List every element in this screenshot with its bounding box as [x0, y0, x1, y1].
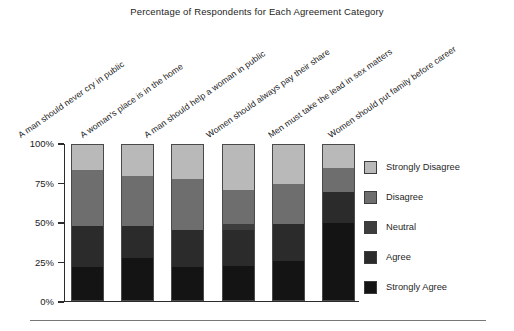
y-axis-tick-label: 100%	[30, 139, 58, 149]
bar-segment	[72, 226, 103, 268]
bar-group	[65, 144, 359, 301]
bar-segment	[323, 223, 354, 301]
bar-segment	[223, 145, 254, 190]
legend-color-swatch	[364, 191, 377, 204]
bar-segment	[172, 267, 203, 300]
bar-segment	[172, 179, 203, 230]
bar-segment	[72, 145, 103, 170]
stacked-bar	[272, 144, 305, 301]
bar-segment	[273, 145, 304, 184]
chart-figure: Percentage of Respondents for Each Agree…	[0, 0, 514, 331]
legend-label: Neutral	[386, 222, 416, 232]
legend-item: Strongly Disagree	[364, 152, 514, 182]
bar-segment	[172, 145, 203, 179]
x-axis-category-labels: A man should never cry in publicA woman'…	[0, 0, 514, 142]
bar-segment	[72, 267, 103, 300]
stacked-bar	[121, 144, 154, 301]
x-axis-category-label: Men must take the lead in sex matters	[266, 46, 394, 140]
bar-segment	[323, 145, 354, 168]
bar-segment	[223, 190, 254, 224]
bar-segment	[72, 170, 103, 226]
stacked-bar	[171, 144, 204, 301]
stacked-bar	[322, 144, 355, 301]
y-axis-tick-label: 50%	[35, 218, 58, 228]
legend-item: Disagree	[364, 182, 514, 212]
y-axis-tick-label: 0%	[40, 297, 58, 307]
bar-segment	[122, 145, 153, 176]
x-axis-category-label: A man should never cry in public	[16, 59, 126, 140]
x-axis-category-label: A woman's place is in the home	[78, 61, 185, 140]
y-axis-tick-label: 75%	[35, 179, 58, 189]
legend-item: Agree	[364, 242, 514, 272]
legend-color-swatch	[364, 281, 377, 294]
bar-segment	[172, 230, 203, 267]
chart-legend: Strongly DisagreeDisagreeNeutralAgreeStr…	[364, 152, 514, 302]
stacked-bar	[222, 144, 255, 301]
legend-label: Agree	[386, 252, 411, 262]
legend-item: Strongly Agree	[364, 272, 514, 302]
bar-segment	[122, 258, 153, 300]
legend-label: Strongly Agree	[386, 282, 447, 292]
bar-segment	[273, 224, 304, 261]
y-axis-tick-label: 25%	[35, 258, 58, 268]
plot-area	[64, 144, 359, 302]
bar-segment	[223, 230, 254, 266]
stacked-bar	[71, 144, 104, 301]
y-axis: 0%25%50%75%100%	[0, 144, 64, 302]
bar-segment	[122, 226, 153, 259]
bar-segment	[122, 176, 153, 226]
legend-color-swatch	[364, 161, 377, 174]
x-axis-category-label: Women should always pay their share	[204, 47, 331, 140]
bar-segment	[323, 192, 354, 223]
legend-label: Strongly Disagree	[386, 162, 460, 172]
legend-label: Disagree	[386, 192, 423, 202]
legend-item: Neutral	[364, 212, 514, 242]
bar-segment	[273, 261, 304, 300]
bar-segment	[323, 168, 354, 191]
page-divider-rule	[30, 320, 486, 321]
bar-segment	[273, 184, 304, 224]
bar-segment	[223, 266, 254, 300]
legend-color-swatch	[364, 251, 377, 264]
x-axis-category-label: Women should put family before career	[326, 44, 458, 140]
legend-color-swatch	[364, 221, 377, 234]
x-axis-category-label: A man should help a woman in public	[142, 48, 267, 140]
